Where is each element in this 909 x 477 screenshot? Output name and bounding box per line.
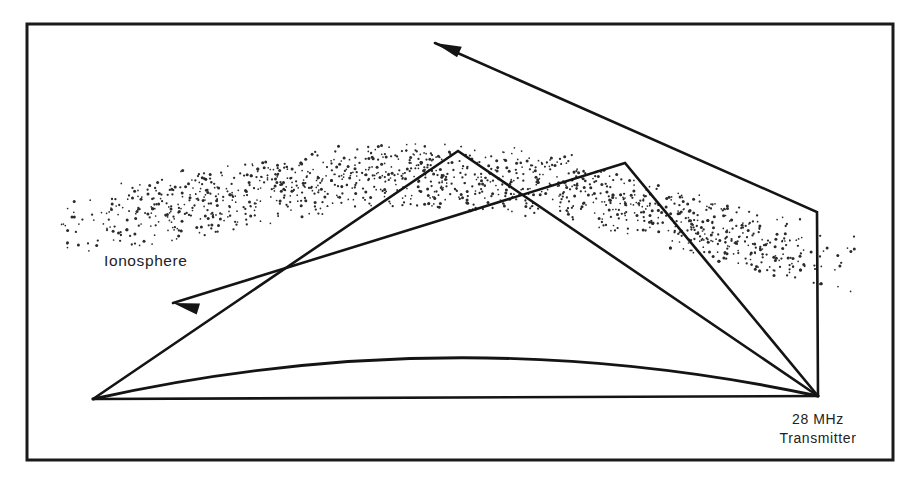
stipple-dot [459,172,461,174]
stipple-dot [726,207,729,210]
stipple-dot [756,214,758,216]
stipple-dot [131,187,133,189]
stipple-dot [384,181,386,183]
stipple-dot [592,194,594,196]
stipple-dot [724,253,726,255]
stipple-dot [291,186,293,188]
stipple-dot [278,169,281,172]
stipple-dot [624,215,626,217]
stipple-dot [249,215,252,218]
stipple-dot [367,146,369,148]
stipple-dot [559,158,561,160]
stipple-dot [554,164,557,167]
stipple-dot [689,219,692,222]
stipple-dot [678,204,680,206]
stipple-dot [593,201,595,203]
stipple-dot [531,205,533,207]
stipple-dot [160,193,162,195]
stipple-dot [425,158,427,160]
stipple-dot [693,229,695,231]
stipple-dot [302,184,304,186]
stipple-dot [819,255,821,257]
stipple-dot [788,264,790,266]
stipple-dot [186,212,188,214]
stipple-dot [167,216,169,218]
stipple-dot [690,222,693,225]
stipple-dot [761,239,763,241]
stipple-dot [665,197,668,200]
stipple-dot [711,231,713,233]
stipple-dot [291,168,294,171]
stipple-dot [396,155,398,157]
stipple-dot [367,151,369,153]
stipple-dot [297,187,299,189]
stipple-dot [245,219,247,221]
stipple-dot [616,213,619,216]
stipple-dot [235,201,237,203]
stipple-dot [461,176,463,178]
stipple-dot [178,229,180,231]
stipple-dot [308,187,310,189]
stipple-dot [539,193,542,196]
stipple-dot [244,164,246,166]
stipple-dot [417,181,419,183]
stipple-dot [205,194,207,196]
stipple-dot [91,214,93,216]
stipple-dot [304,197,306,199]
stipple-dot [589,186,592,189]
stipple-dot [725,258,727,260]
stipple-dot [228,211,230,213]
stipple-dot [776,219,778,221]
stipple-dot [606,191,608,193]
stipple-dot [649,186,651,188]
stipple-dot [381,175,383,177]
stipple-dot [581,205,584,208]
stipple-dot [231,192,233,194]
stipple-dot [625,211,627,213]
stipple-dot [781,247,784,250]
stipple-dot [173,218,175,220]
stipple-dot [699,240,701,242]
stipple-dot [246,194,248,196]
stipple-dot [524,215,526,217]
stipple-dot [484,197,486,199]
stipple-dot [255,206,257,208]
stipple-dot [490,195,492,197]
stipple-dot [529,188,531,190]
stipple-dot [544,192,547,195]
stipple-dot [441,188,443,190]
stipple-dot [700,226,703,229]
stipple-dot [113,225,115,227]
stipple-dot [365,158,367,160]
stipple-dot [254,214,256,216]
stipple-dot [549,182,551,184]
stipple-dot [404,172,406,174]
stipple-dot [541,162,543,164]
stipple-dot [254,202,256,204]
stipple-dot [598,217,601,220]
stipple-dot [521,150,523,152]
stipple-dot [417,158,419,160]
stipple-dot [403,201,405,203]
stipple-dot [156,181,159,184]
stipple-dot [232,228,234,230]
stipple-dot [636,229,638,231]
stipple-dot [379,176,382,179]
stipple-dot [534,166,536,168]
stipple-dot [725,230,728,233]
stipple-dot [508,170,511,173]
stipple-dot [372,174,374,176]
stipple-dot [746,262,748,264]
stipple-dot [573,195,576,198]
stipple-dot [390,155,392,157]
stipple-dot [460,193,463,196]
stipple-dot [792,257,795,260]
stipple-dot [786,223,788,225]
stipple-dot [460,146,462,148]
stipple-dot [368,202,370,204]
stipple-dot [277,213,279,215]
stipple-dot [571,186,573,188]
stipple-dot [728,246,730,248]
stipple-dot [472,204,474,206]
stipple-dot [287,168,289,170]
